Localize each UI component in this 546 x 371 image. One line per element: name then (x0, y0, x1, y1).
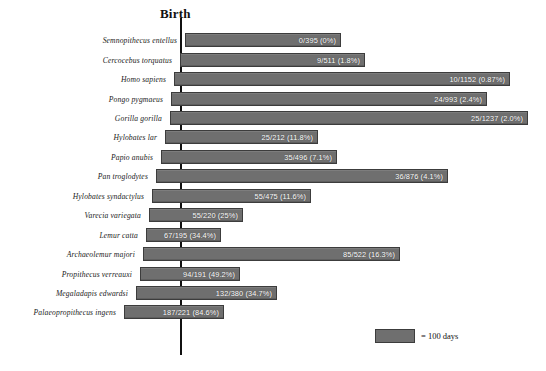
bar: 25/1237 (2.0%) (170, 111, 528, 125)
bar-row: Semnopithecus entellus0/395 (0%) (0, 31, 546, 50)
species-label: Gorilla gorilla (115, 113, 162, 122)
bar-row: Homo sapiens10/1152 (0.87%) (0, 69, 546, 88)
bar-value-label: 36/876 (4.1%) (395, 172, 443, 181)
bar-row: Archaeolemur majori85/522 (16.3%) (0, 244, 546, 263)
bar: 24/993 (2.4%) (171, 92, 487, 106)
bar-value-label: 132/380 (34.7%) (216, 289, 272, 298)
bar-value-label: 55/475 (11.6%) (255, 191, 306, 200)
bar: 67/195 (34.4%) (146, 228, 221, 242)
bar: 36/876 (4.1%) (156, 169, 448, 183)
bar-value-label: 187/221 (84.6%) (163, 308, 219, 317)
bar: 25/212 (11.8%) (165, 130, 318, 144)
bar: 55/220 (25%) (149, 208, 243, 222)
bar-row: Cercocebus torquatus9/511 (1.8%) (0, 50, 546, 69)
bar-row: Gorilla gorilla25/1237 (2.0%) (0, 108, 546, 127)
bar-row: Pan troglodytes36/876 (4.1%) (0, 167, 546, 186)
species-label: Papio anubis (111, 152, 153, 161)
bar: 187/221 (84.6%) (124, 305, 224, 319)
species-label: Cercocebus torquatus (103, 55, 172, 64)
bar-row: Lemur catta67/195 (34.4%) (0, 225, 546, 244)
species-label: Semnopithecus entellus (103, 36, 177, 45)
bar-value-label: 9/511 (1.8%) (317, 55, 360, 64)
species-label: Archaeolemur majori (67, 250, 135, 259)
bar: 35/496 (7.1%) (161, 150, 337, 164)
bar-value-label: 0/395 (0%) (299, 36, 336, 45)
birth-axis-title: Birth (160, 6, 191, 22)
bar-row: Palaeopropithecus ingens187/221 (84.6%) (0, 303, 546, 322)
species-label: Varecia variegata (85, 211, 141, 220)
bar-value-label: 24/993 (2.4%) (434, 94, 482, 103)
legend-swatch-icon (375, 329, 415, 343)
bar: 10/1152 (0.87%) (174, 72, 510, 86)
bar-value-label: 85/522 (16.3%) (343, 250, 395, 259)
bar: 9/511 (1.8%) (180, 53, 365, 67)
species-label: Megaladapis edwardsi (56, 289, 128, 298)
bar-row: Propithecus verreauxi94/191 (49.2%) (0, 264, 546, 283)
bar-value-label: 35/496 (7.1%) (284, 152, 332, 161)
bar-row: Varecia variegata55/220 (25%) (0, 206, 546, 225)
bar: 0/395 (0%) (185, 33, 341, 47)
bar-value-label: 55/220 (25%) (192, 211, 238, 220)
bar-row: Pongo pygmaeus24/993 (2.4%) (0, 89, 546, 108)
species-label: Pongo pygmaeus (109, 94, 163, 103)
bar: 55/475 (11.6%) (152, 189, 311, 203)
bar-value-label: 25/212 (11.8%) (262, 133, 313, 142)
bar-row: Hylobates syndactylus55/475 (11.6%) (0, 186, 546, 205)
legend-label: = 100 days (421, 331, 458, 341)
legend: = 100 days (375, 329, 458, 343)
bar: 94/191 (49.2%) (140, 267, 240, 281)
species-label: Propithecus verreauxi (62, 269, 132, 278)
bar-value-label: 67/195 (34.4%) (164, 230, 216, 239)
bar-value-label: 10/1152 (0.87%) (449, 75, 505, 84)
bar-value-label: 25/1237 (2.0%) (471, 113, 523, 122)
bar: 85/522 (16.3%) (143, 247, 400, 261)
species-label: Lemur catta (99, 230, 138, 239)
species-label: Hylobates lar (113, 133, 157, 142)
bar-row: Papio anubis35/496 (7.1%) (0, 147, 546, 166)
bar: 132/380 (34.7%) (136, 286, 277, 300)
species-label: Homo sapiens (121, 75, 166, 84)
species-label: Pan troglodytes (98, 172, 148, 181)
bar-row: Megaladapis edwardsi132/380 (34.7%) (0, 283, 546, 302)
species-label: Palaeopropithecus ingens (34, 308, 116, 317)
chart-canvas: Birth Semnopithecus entellus0/395 (0%)Ce… (0, 0, 546, 371)
bar-value-label: 94/191 (49.2%) (183, 269, 235, 278)
bar-row: Hylobates lar25/212 (11.8%) (0, 128, 546, 147)
species-label: Hylobates syndactylus (73, 191, 144, 200)
